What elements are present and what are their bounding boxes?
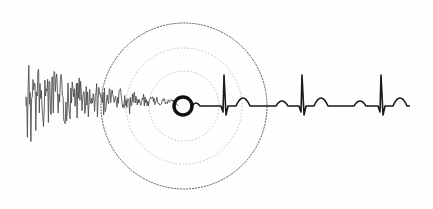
ecg-waveform [192,75,410,115]
heartbeat-illustration [0,0,433,209]
focus-ring-icon [174,97,192,115]
noise-waveform [26,65,178,141]
ripple-circle [126,48,242,164]
concentric-circles [101,23,267,189]
signal-graphic [0,0,433,209]
